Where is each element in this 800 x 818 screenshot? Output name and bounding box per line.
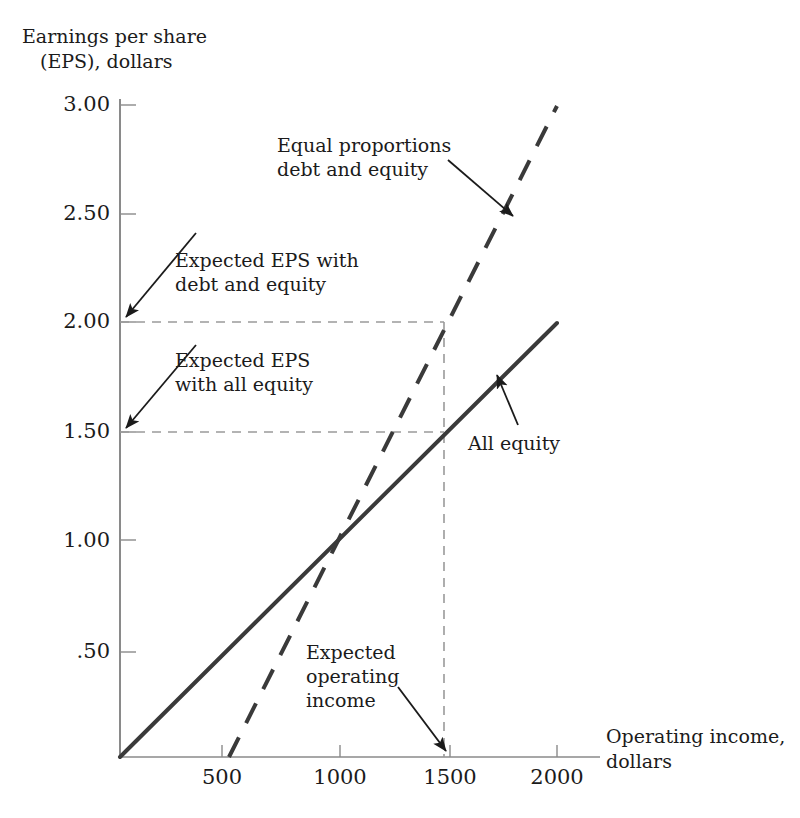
- leader-arrow-expected-operating-income: [398, 687, 446, 751]
- leader-arrow-expected-eps-debt-equity: [126, 233, 196, 317]
- leader-arrow-expected-eps-all-equity: [126, 345, 196, 428]
- eps-vs-operating-income-chart: Earnings per share(EPS), dollars Operati…: [0, 0, 800, 818]
- plot-area: [0, 0, 800, 818]
- leader-arrow-equal-proportions: [448, 160, 513, 216]
- leader-arrow-all-equity: [497, 375, 518, 425]
